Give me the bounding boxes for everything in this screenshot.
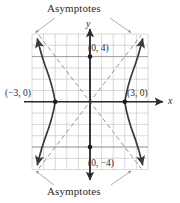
y-axis-label: y: [86, 19, 90, 29]
vertex-left-label: (−3, 0): [5, 89, 31, 99]
left-branch-upper: [37, 39, 55, 102]
point-covertex-top: [88, 54, 93, 59]
covertex-top-label: (0, 4): [88, 44, 109, 54]
left-branch-lower: [37, 102, 55, 165]
leader-top-right: [110, 18, 131, 33]
vertex-right-label: (3, 0): [127, 89, 148, 99]
point-vertex-left: [53, 100, 58, 105]
covertex-bottom-label: (0, −4): [88, 159, 114, 169]
leader-bottom-right: [111, 171, 131, 185]
leader-bottom-left: [36, 171, 54, 185]
point-covertex-bottom: [88, 145, 93, 150]
x-axis-label: x: [168, 96, 172, 106]
right-branch-lower: [125, 102, 143, 165]
asymptotes-label-bottom: Asymptotes: [47, 186, 101, 197]
hyperbola-figure: Asymptotes Asymptotes (0, 4) (0, −4) (−3…: [0, 0, 180, 203]
asymptotes-label-top: Asymptotes: [47, 3, 101, 14]
leader-top-left: [36, 18, 56, 33]
graph-canvas: [0, 0, 180, 203]
point-vertex-right: [123, 100, 128, 105]
